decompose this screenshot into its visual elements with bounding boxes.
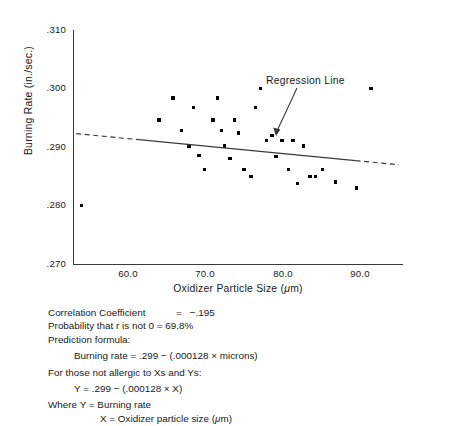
scatter-plot-figure: .310 .300 .290 .280 .270 60.0 70.0 80.0 … bbox=[0, 0, 468, 426]
regression-line-layer bbox=[0, 0, 468, 300]
regression-line-dashed-right bbox=[356, 161, 399, 165]
correlation-coefficient-equals: = bbox=[176, 307, 182, 318]
where-y-row: Where Y = Burning rate bbox=[48, 398, 448, 411]
statistics-block: Correlation Coefficient=−.195 Probabilit… bbox=[48, 306, 448, 425]
correlation-coefficient-row: Correlation Coefficient=−.195 bbox=[48, 306, 448, 319]
probability-row: Probability that r is not 0 = 69.8% bbox=[48, 319, 448, 332]
prediction-formula-row: Burning rate = .299 − (.000128 × microns… bbox=[48, 349, 448, 362]
regression-line-solid bbox=[139, 140, 356, 161]
regression-line-dashed-left bbox=[76, 134, 139, 140]
annotation-arrow-head bbox=[273, 128, 280, 136]
annotation-arrow-line bbox=[277, 88, 297, 131]
where-x-row: X = Oxidizer particle size (μm) bbox=[48, 412, 448, 425]
where-x-close: m) bbox=[220, 413, 232, 424]
where-x-text: X = Oxidizer particle size ( bbox=[100, 413, 215, 424]
xy-formula-row: Y = .299 − (.000128 × X) bbox=[48, 382, 448, 395]
correlation-coefficient-value: −.195 bbox=[182, 307, 215, 318]
correlation-coefficient-label: Correlation Coefficient bbox=[48, 306, 176, 319]
allergic-note-row: For those not allergic to Xs and Ys: bbox=[48, 366, 448, 379]
regression-line-annotation-label: Regression Line bbox=[266, 75, 345, 86]
prediction-formula-header: Prediction formula: bbox=[48, 333, 448, 346]
